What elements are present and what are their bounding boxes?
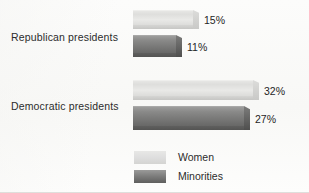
value-label-republican-minorities: 11%	[187, 42, 207, 53]
category-label-republican: Republican presidents	[11, 32, 118, 43]
value-label-democratic-minorities: 27%	[255, 114, 276, 125]
bar-end-cap	[193, 10, 199, 29]
bar-base-lip	[133, 126, 244, 130]
bar-base-lip	[133, 25, 193, 29]
category-label-democratic: Democratic presidents	[11, 101, 119, 112]
bar-base-lip	[133, 53, 176, 57]
bar-end-cap	[253, 80, 259, 100]
bar-democratic-women	[133, 80, 259, 100]
bar-chart: Republican presidents 15% 11% Democratic…	[0, 0, 309, 193]
legend-swatch-minorities	[134, 170, 166, 183]
bar-republican-women	[133, 10, 199, 29]
bar-republican-minorities	[133, 35, 182, 57]
bar-democratic-minorities	[133, 106, 250, 130]
value-label-democratic-women: 32%	[264, 86, 285, 97]
bar-end-cap	[176, 35, 182, 57]
legend-label-women: Women	[178, 152, 214, 163]
legend-swatch-women	[134, 151, 166, 164]
bar-base-lip	[133, 96, 253, 100]
bar-end-cap	[244, 106, 250, 130]
legend-label-minorities: Minorities	[178, 171, 223, 182]
value-label-republican-women: 15%	[204, 15, 225, 26]
